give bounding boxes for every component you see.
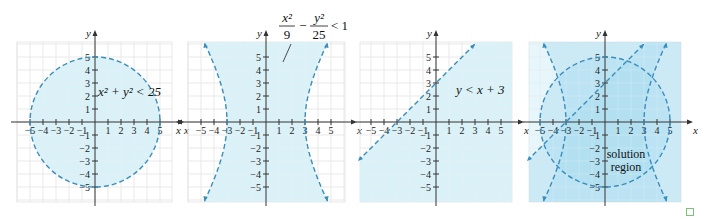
svg-text:1: 1 (426, 104, 431, 115)
axes (176, 30, 357, 206)
panel-line: −5−5−4−4−3−3−2−2−1−11122334455xy (345, 0, 529, 218)
svg-text:−3: −3 (250, 156, 261, 167)
svg-text:−5: −5 (420, 182, 431, 193)
svg-text:3: 3 (426, 78, 431, 89)
svg-text:3: 3 (473, 125, 478, 136)
svg-text:−2: −2 (235, 125, 246, 136)
svg-text:2: 2 (85, 91, 90, 102)
svg-text:1: 1 (256, 104, 261, 115)
svg-text:3: 3 (132, 125, 137, 136)
solution-label-line1: solution (607, 147, 646, 161)
svg-text:−5: −5 (250, 182, 261, 193)
svg-text:4: 4 (145, 125, 150, 136)
svg-text:−2: −2 (574, 125, 585, 136)
svg-text:4: 4 (85, 65, 90, 76)
svg-text:−1: −1 (250, 130, 261, 141)
x-axis-label: x (692, 124, 698, 136)
svg-text:−3: −3 (420, 156, 431, 167)
y-axis-label: y (595, 27, 601, 39)
svg-text:2: 2 (119, 125, 124, 136)
svg-text:−5: −5 (366, 125, 377, 136)
x-axis-label: x (356, 124, 362, 136)
circle-inequality-label: x² + y² < 25 (97, 84, 161, 99)
svg-text:1: 1 (106, 125, 111, 136)
svg-text:1: 1 (447, 125, 452, 136)
svg-text:−4: −4 (420, 169, 431, 180)
svg-text:25: 25 (313, 27, 326, 42)
svg-text:−3: −3 (79, 156, 90, 167)
svg-text:1: 1 (616, 125, 621, 136)
svg-text:−4: −4 (79, 169, 90, 180)
hyperbola-inequality-label: x²9−y²25< 1 (279, 10, 348, 42)
svg-text:−2: −2 (589, 143, 600, 154)
y-axis-label: y (85, 27, 91, 39)
svg-text:5: 5 (256, 52, 261, 63)
svg-text:2: 2 (290, 125, 295, 136)
svg-text:5: 5 (426, 52, 431, 63)
panel-circle: −5−5−4−4−3−3−2−2−1−11122334455xy (11, 27, 189, 206)
line-inequality-label: y < x + 3 (454, 82, 505, 97)
x-axis-label: x (523, 124, 529, 136)
svg-text:−1: −1 (420, 130, 431, 141)
svg-text:4: 4 (655, 125, 660, 136)
checkbox-icon[interactable] (686, 208, 694, 216)
svg-text:−3: −3 (589, 156, 600, 167)
inequality-graphs: −5−5−4−4−3−3−2−2−1−11122334455xy−5−5−4−4… (0, 0, 706, 218)
svg-text:−3: −3 (51, 125, 62, 136)
svg-text:1: 1 (277, 125, 282, 136)
svg-text:−4: −4 (209, 125, 220, 136)
solution-label-line2: region (611, 160, 642, 174)
panel-solution: −5−5−4−4−3−3−2−2−1−11122334455xy (514, 0, 698, 218)
svg-text:9: 9 (284, 27, 291, 42)
svg-text:−2: −2 (64, 125, 75, 136)
svg-text:y²: y² (312, 10, 325, 25)
svg-text:−: − (299, 18, 306, 33)
svg-text:5: 5 (329, 125, 334, 136)
y-axis-label: y (256, 27, 262, 39)
y-axis-label: y (426, 27, 432, 39)
svg-text:−2: −2 (250, 143, 261, 154)
svg-text:4: 4 (316, 125, 321, 136)
svg-text:4: 4 (426, 65, 431, 76)
svg-text:< 1: < 1 (331, 18, 348, 33)
svg-text:4: 4 (256, 65, 261, 76)
svg-text:4: 4 (595, 65, 600, 76)
svg-text:2: 2 (256, 91, 261, 102)
svg-text:−2: −2 (79, 143, 90, 154)
svg-text:x: x (175, 124, 181, 136)
svg-text:−2: −2 (405, 125, 416, 136)
svg-text:2: 2 (460, 125, 465, 136)
svg-text:−2: −2 (420, 143, 431, 154)
svg-text:3: 3 (595, 78, 600, 89)
panel-hyperbola: −5−5−4−4−3−3−2−2−1−11122334455xxy (175, 27, 362, 206)
svg-text:4: 4 (486, 125, 491, 136)
svg-text:−1: −1 (589, 130, 600, 141)
svg-text:1: 1 (85, 104, 90, 115)
svg-text:1: 1 (595, 104, 600, 115)
svg-text:3: 3 (85, 78, 90, 89)
svg-text:−4: −4 (250, 169, 261, 180)
svg-text:−4: −4 (589, 169, 600, 180)
svg-text:3: 3 (256, 78, 261, 89)
svg-text:−1: −1 (79, 130, 90, 141)
svg-text:x²: x² (281, 10, 293, 25)
svg-text:−5: −5 (196, 125, 207, 136)
svg-text:5: 5 (499, 125, 504, 136)
svg-text:2: 2 (629, 125, 634, 136)
svg-text:−4: −4 (38, 125, 49, 136)
